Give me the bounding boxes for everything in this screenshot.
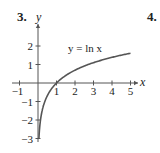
tick-label: 1 — [54, 85, 60, 97]
problem-number-4: 4. — [147, 9, 157, 24]
problem-number-3: 3. — [17, 9, 27, 24]
ln-curve — [39, 53, 131, 138]
x-axis-label: x — [139, 75, 146, 89]
tick-label: 5 — [128, 85, 134, 97]
tick-label: 4 — [109, 85, 115, 97]
tick-label: 1 — [28, 59, 34, 71]
tick-labels: −112345−3−2−112 — [12, 40, 134, 145]
tick-label: 2 — [72, 85, 78, 97]
tick-label: −3 — [21, 133, 33, 145]
tick-label: 3 — [91, 85, 97, 97]
y-axis-label: y — [35, 10, 42, 24]
tick-label: −2 — [21, 114, 33, 126]
ln-graph: 3. 4. −112345−3−2−112 y x y = ln x — [0, 0, 160, 153]
curve-annotation: y = ln x — [68, 42, 103, 54]
tick-label: −1 — [21, 96, 33, 108]
tick-label: 2 — [28, 40, 34, 52]
